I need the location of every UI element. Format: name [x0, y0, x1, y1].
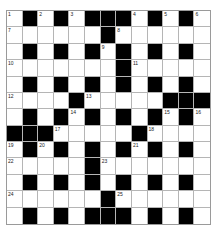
letter-square[interactable] [132, 158, 148, 174]
letter-square[interactable] [132, 109, 148, 125]
letter-square[interactable] [54, 27, 70, 43]
letter-square[interactable]: 24 [7, 191, 23, 207]
letter-square[interactable] [132, 191, 148, 207]
letter-square[interactable]: 9 [101, 44, 117, 60]
letter-square[interactable] [69, 60, 85, 76]
letter-square[interactable] [54, 60, 70, 76]
letter-square[interactable] [194, 44, 210, 60]
letter-square[interactable] [179, 158, 195, 174]
letter-square[interactable] [163, 60, 179, 76]
letter-square[interactable] [194, 27, 210, 43]
letter-square[interactable] [163, 208, 179, 224]
letter-square[interactable] [179, 126, 195, 142]
letter-square[interactable] [132, 77, 148, 93]
letter-square[interactable] [101, 77, 117, 93]
letter-square[interactable] [132, 175, 148, 191]
letter-square[interactable] [54, 93, 70, 109]
letter-square[interactable] [194, 191, 210, 207]
letter-square[interactable]: 6 [194, 11, 210, 27]
letter-square[interactable] [38, 44, 54, 60]
letter-square[interactable] [85, 126, 101, 142]
letter-square[interactable]: 12 [7, 93, 23, 109]
letter-square[interactable] [101, 93, 117, 109]
letter-square[interactable] [116, 93, 132, 109]
letter-square[interactable] [194, 208, 210, 224]
letter-square[interactable] [69, 191, 85, 207]
letter-square[interactable] [101, 109, 117, 125]
letter-square[interactable] [69, 77, 85, 93]
letter-square[interactable]: 22 [7, 158, 23, 174]
letter-square[interactable]: 2 [38, 11, 54, 27]
letter-square[interactable] [7, 77, 23, 93]
letter-square[interactable] [38, 208, 54, 224]
letter-square[interactable] [85, 191, 101, 207]
letter-square[interactable] [148, 191, 164, 207]
letter-square[interactable] [194, 126, 210, 142]
letter-square[interactable] [23, 158, 39, 174]
letter-square[interactable] [69, 44, 85, 60]
letter-square[interactable] [116, 158, 132, 174]
letter-square[interactable] [163, 142, 179, 158]
letter-square[interactable] [69, 158, 85, 174]
letter-square[interactable] [85, 27, 101, 43]
letter-square[interactable]: 15 [163, 109, 179, 125]
letter-square[interactable]: 18 [148, 126, 164, 142]
letter-square[interactable] [38, 27, 54, 43]
letter-square[interactable] [194, 60, 210, 76]
letter-square[interactable] [54, 158, 70, 174]
letter-square[interactable] [38, 175, 54, 191]
letter-square[interactable] [179, 60, 195, 76]
letter-square[interactable] [163, 191, 179, 207]
letter-square[interactable] [101, 142, 117, 158]
letter-square[interactable]: 25 [116, 191, 132, 207]
letter-square[interactable] [23, 93, 39, 109]
letter-square[interactable] [38, 158, 54, 174]
letter-square[interactable]: 17 [54, 126, 70, 142]
letter-square[interactable]: 1 [7, 11, 23, 27]
letter-square[interactable] [38, 109, 54, 125]
letter-square[interactable] [163, 126, 179, 142]
letter-square[interactable] [148, 27, 164, 43]
letter-square[interactable] [194, 142, 210, 158]
letter-square[interactable] [132, 93, 148, 109]
letter-square[interactable] [69, 208, 85, 224]
letter-square[interactable] [69, 27, 85, 43]
letter-square[interactable] [38, 191, 54, 207]
letter-square[interactable] [69, 175, 85, 191]
letter-square[interactable] [163, 158, 179, 174]
letter-square[interactable] [69, 126, 85, 142]
letter-square[interactable] [163, 44, 179, 60]
letter-square[interactable]: 16 [194, 109, 210, 125]
letter-square[interactable] [7, 208, 23, 224]
letter-square[interactable]: 23 [101, 158, 117, 174]
letter-square[interactable] [179, 191, 195, 207]
letter-square[interactable] [148, 60, 164, 76]
letter-square[interactable] [148, 93, 164, 109]
letter-square[interactable] [85, 60, 101, 76]
letter-square[interactable]: 8 [116, 27, 132, 43]
letter-square[interactable]: 10 [7, 60, 23, 76]
letter-square[interactable] [101, 60, 117, 76]
letter-square[interactable] [163, 27, 179, 43]
letter-square[interactable] [38, 60, 54, 76]
letter-square[interactable] [148, 158, 164, 174]
letter-square[interactable] [38, 77, 54, 93]
letter-square[interactable] [7, 109, 23, 125]
letter-square[interactable]: 5 [163, 11, 179, 27]
letter-square[interactable]: 14 [69, 109, 85, 125]
letter-square[interactable]: 13 [85, 93, 101, 109]
letter-square[interactable] [7, 44, 23, 60]
letter-square[interactable] [194, 175, 210, 191]
letter-square[interactable]: 7 [7, 27, 23, 43]
letter-square[interactable]: 11 [132, 60, 148, 76]
letter-square[interactable] [132, 27, 148, 43]
letter-square[interactable] [194, 158, 210, 174]
letter-square[interactable]: 20 [38, 142, 54, 158]
letter-square[interactable] [132, 44, 148, 60]
letter-square[interactable]: 3 [69, 11, 85, 27]
letter-square[interactable] [163, 77, 179, 93]
letter-square[interactable] [54, 191, 70, 207]
letter-square[interactable] [163, 175, 179, 191]
letter-square[interactable] [132, 208, 148, 224]
letter-square[interactable] [7, 175, 23, 191]
